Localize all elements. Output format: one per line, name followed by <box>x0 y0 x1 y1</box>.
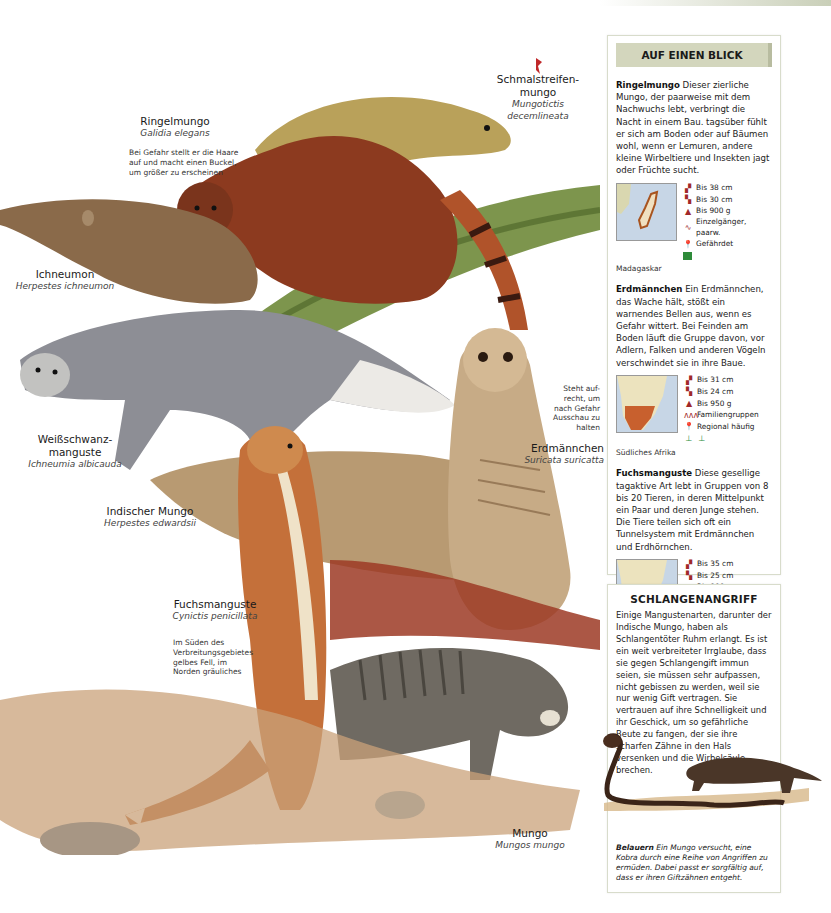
label-mungo: Mungo Mungos mungo <box>490 827 570 851</box>
fact-body-length: ▞Bis 38 cm <box>683 183 772 195</box>
entry-erdmaennchen-text: Erdmännchen Ein Erdmännchen, das Wache h… <box>616 283 772 368</box>
family-group-icon: ᴧᴧᴧ <box>684 410 694 422</box>
habitat-icons <box>683 250 772 260</box>
body-length-icon: ▞ <box>684 375 694 387</box>
at-a-glance-title: AUF EINEN BLICK <box>616 43 772 67</box>
social-icon: ∿ <box>683 222 693 234</box>
label-fuchsmanguste: Fuchsmanguste Cynictis penicillata <box>155 598 275 622</box>
fact-body-length: ▞Bis 35 cm <box>684 559 759 571</box>
page-top-band <box>600 0 831 6</box>
cobra-mongoose-illustration <box>594 733 824 813</box>
grassland-habitat-icon: ⊥ <box>697 433 707 445</box>
tail-length-icon: ▚ <box>683 194 693 206</box>
fact-weight: ▲Bis 900 g <box>683 206 772 218</box>
savanna-habitat-icon: ⊥ <box>684 433 694 445</box>
label-indischer-mungo: Indischer Mungo Herpestes edwardsii <box>90 505 210 529</box>
body-length-icon: ▞ <box>683 183 693 195</box>
region-label: Madagaskar <box>616 264 772 273</box>
tail-length-icon: ▚ <box>684 570 694 582</box>
label-erdmaennchen: Erdmännchen Suricata suricatta <box>524 442 604 466</box>
entry-erdmaennchen-facts: ▞Bis 31 cm ▚Bis 24 cm ▲Bis 950 g ᴧᴧᴧFami… <box>616 375 772 445</box>
map-suedliches-afrika <box>616 375 678 433</box>
habitat-icons: ⊥⊥ <box>684 433 759 445</box>
region-label: Südliches Afrika <box>616 448 772 457</box>
tail-length-icon: ▚ <box>684 386 694 398</box>
note-fuchsmanguste: Im Süden des Verbreitungsgebietes gelbes… <box>173 638 283 677</box>
label-ringelmungo: Ringelmungo Galidia elegans <box>115 115 235 139</box>
status-pin-icon: 📍 <box>683 239 693 251</box>
entry-ringelmungo-text: Ringelmungo Dieser zierliche Mungo, der … <box>616 79 772 177</box>
snake-attack-title: SCHLANGENANGRIFF <box>608 593 780 605</box>
fact-social: ᴧᴧᴧFamiliengruppen <box>684 410 759 422</box>
note-ringelmungo: Bei Gefahr stellt er die Haare auf und m… <box>129 148 269 177</box>
fact-status: 📍Regional häufig <box>684 421 759 433</box>
fact-tail-length: ▚Bis 25 cm <box>684 570 759 582</box>
snake-attack-caption: Belauern Ein Mungo versucht, eine Kobra … <box>616 843 772 884</box>
fact-social: ∿Einzelgänger, paarw. <box>683 217 772 238</box>
map-madagaskar <box>616 183 677 241</box>
label-weissschwanzmanguste: Weißschwanz- manguste Ichneumia albicaud… <box>20 433 130 471</box>
fact-status: 📍Gefährdet <box>683 239 772 251</box>
note-erdmaennchen: Steht auf- recht, um nach Gefahr Ausscha… <box>540 384 600 433</box>
fact-tail-length: ▚Bis 30 cm <box>683 194 772 206</box>
entry-fuchsmanguste-text: Fuchsmanguste Diese gesellige tagaktive … <box>616 467 772 552</box>
at-a-glance-box: AUF EINEN BLICK Ringelmungo Dieser zierl… <box>607 35 781 575</box>
entry-ringelmungo-facts: ▞Bis 38 cm ▚Bis 30 cm ▲Bis 900 g ∿Einzel… <box>616 183 772 261</box>
fact-body-length: ▞Bis 31 cm <box>684 375 759 387</box>
mongoose-illustration: Schmalstreifen- mungo Mungotictis deceml… <box>0 55 600 855</box>
snake-attack-box: SCHLANGENANGRIFF Einige Mangustenarten, … <box>607 584 781 893</box>
fact-tail-length: ▚Bis 24 cm <box>684 386 759 398</box>
weight-icon: ▲ <box>683 206 693 218</box>
fact-weight: ▲Bis 950 g <box>684 398 759 410</box>
forest-habitat-icon <box>683 252 692 260</box>
weight-icon: ▲ <box>684 398 694 410</box>
status-pin-icon: 📍 <box>684 421 694 433</box>
body-length-icon: ▞ <box>684 559 694 571</box>
label-schmalstreifenmungo: Schmalstreifen- mungo Mungotictis deceml… <box>488 73 588 122</box>
label-ichneumon: Ichneumon Herpestes ichneumon <box>10 268 120 292</box>
